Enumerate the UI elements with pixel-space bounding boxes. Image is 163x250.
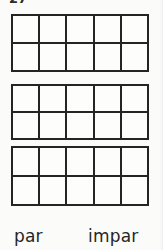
ten-frame-cell[interactable] bbox=[40, 113, 67, 140]
ten-frame-cell[interactable] bbox=[95, 177, 122, 206]
ten-frame-cell[interactable] bbox=[67, 44, 94, 72]
ten-frame-cell[interactable] bbox=[95, 16, 122, 44]
ten-frame-cell[interactable] bbox=[67, 113, 94, 140]
ten-frame-cell[interactable] bbox=[40, 177, 67, 206]
answer-labels: par impar bbox=[0, 226, 163, 250]
page-number: 27 bbox=[9, 0, 27, 5]
ten-frame-cell[interactable] bbox=[40, 16, 67, 44]
ten-frame-cell[interactable] bbox=[13, 44, 40, 72]
ten-frame-cell[interactable] bbox=[95, 86, 122, 113]
ten-frame-cell[interactable] bbox=[67, 86, 94, 113]
label-even[interactable]: par bbox=[14, 226, 43, 246]
ten-frame-cell[interactable] bbox=[122, 16, 149, 44]
ten-frame-cell[interactable] bbox=[67, 16, 94, 44]
ten-frame-cell[interactable] bbox=[40, 44, 67, 72]
ten-frame-cell[interactable] bbox=[95, 113, 122, 140]
ten-frame-cell[interactable] bbox=[95, 148, 122, 177]
ten-frame-cell[interactable] bbox=[13, 177, 40, 206]
ten-frame-cell[interactable] bbox=[122, 86, 149, 113]
ten-frame-3[interactable] bbox=[11, 146, 149, 206]
worksheet-page: 27 par impar bbox=[0, 0, 163, 250]
ten-frame-cell[interactable] bbox=[40, 148, 67, 177]
ten-frame-cell[interactable] bbox=[40, 86, 67, 113]
ten-frame-cell[interactable] bbox=[67, 177, 94, 206]
ten-frame-2[interactable] bbox=[11, 84, 149, 140]
ten-frame-cell[interactable] bbox=[13, 113, 40, 140]
label-odd[interactable]: impar bbox=[88, 226, 138, 246]
ten-frame-cell[interactable] bbox=[122, 148, 149, 177]
ten-frame-cell[interactable] bbox=[13, 16, 40, 44]
ten-frame-cell[interactable] bbox=[122, 177, 149, 206]
ten-frame-cell[interactable] bbox=[13, 86, 40, 113]
ten-frame-cell[interactable] bbox=[122, 44, 149, 72]
page-edge-shading bbox=[160, 0, 163, 250]
ten-frame-cell[interactable] bbox=[122, 113, 149, 140]
ten-frame-cell[interactable] bbox=[95, 44, 122, 72]
ten-frame-1[interactable] bbox=[11, 14, 149, 72]
ten-frame-cell[interactable] bbox=[67, 148, 94, 177]
ten-frame-cell[interactable] bbox=[13, 148, 40, 177]
